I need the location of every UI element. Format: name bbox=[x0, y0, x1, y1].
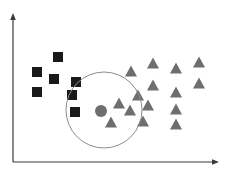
square-marker bbox=[70, 107, 80, 117]
square-marker bbox=[32, 67, 42, 77]
x-axis-arrowhead bbox=[212, 159, 219, 165]
series-2-markers bbox=[105, 56, 205, 129]
triangle-marker bbox=[170, 118, 182, 129]
triangle-marker bbox=[170, 62, 182, 73]
plot-canvas bbox=[0, 0, 229, 174]
triangle-marker bbox=[147, 57, 159, 68]
triangle-marker bbox=[193, 77, 205, 88]
triangle-marker bbox=[170, 103, 182, 114]
data-markers-layer bbox=[32, 52, 205, 130]
y-axis-arrowhead bbox=[10, 13, 16, 20]
square-marker bbox=[49, 74, 59, 84]
triangle-marker bbox=[132, 89, 144, 100]
series-1-markers bbox=[32, 52, 81, 117]
triangle-marker bbox=[170, 86, 182, 97]
triangle-marker bbox=[124, 104, 136, 115]
scatter-plot-figure bbox=[0, 0, 229, 174]
x-axis bbox=[13, 159, 219, 165]
square-marker bbox=[32, 87, 42, 97]
square-marker bbox=[67, 90, 77, 100]
cluster-centroid bbox=[95, 105, 107, 117]
square-marker bbox=[53, 52, 63, 62]
triangle-marker bbox=[125, 65, 137, 76]
triangle-marker bbox=[193, 56, 205, 67]
triangle-marker bbox=[142, 99, 154, 110]
triangle-marker bbox=[105, 116, 117, 127]
triangle-marker bbox=[113, 97, 125, 108]
y-axis bbox=[10, 13, 16, 162]
triangle-marker bbox=[147, 79, 159, 90]
square-marker bbox=[71, 77, 81, 87]
